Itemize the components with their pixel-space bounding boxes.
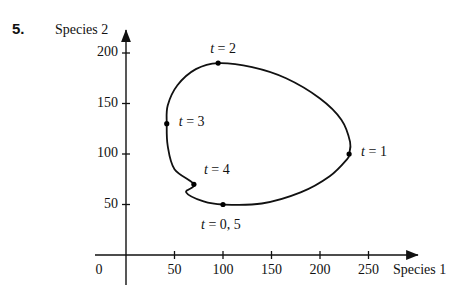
origin-label: 0 (87, 262, 111, 278)
y-tick-label-200: 200 (58, 44, 118, 60)
data-point-t1 (347, 151, 352, 156)
x-tick-label-50: 50 (150, 262, 200, 278)
point-label-3: t = 0, 5 (201, 217, 241, 233)
data-point-layer (164, 61, 352, 208)
y-tick-label-50: 50 (58, 196, 118, 212)
x-tick-label-200: 200 (295, 262, 345, 278)
data-point-t0 (220, 202, 225, 207)
point-label-0: t = 2 (210, 41, 236, 57)
data-point-t4 (191, 182, 196, 187)
data-point-t2 (216, 61, 221, 66)
point-label-4: t = 1 (361, 144, 387, 160)
y-tick-label-150: 150 (58, 95, 118, 111)
x-tick-label-100: 100 (198, 262, 248, 278)
point-label-1: t = 3 (179, 114, 205, 130)
y-tick-label-100: 100 (58, 145, 118, 161)
figure-container: 5. Species 2 Species 1 50100150200250501… (0, 0, 468, 304)
x-tick-label-250: 250 (344, 262, 394, 278)
point-label-2: t = 4 (204, 162, 230, 178)
data-point-t3 (164, 121, 169, 126)
x-tick-label-150: 150 (247, 262, 297, 278)
